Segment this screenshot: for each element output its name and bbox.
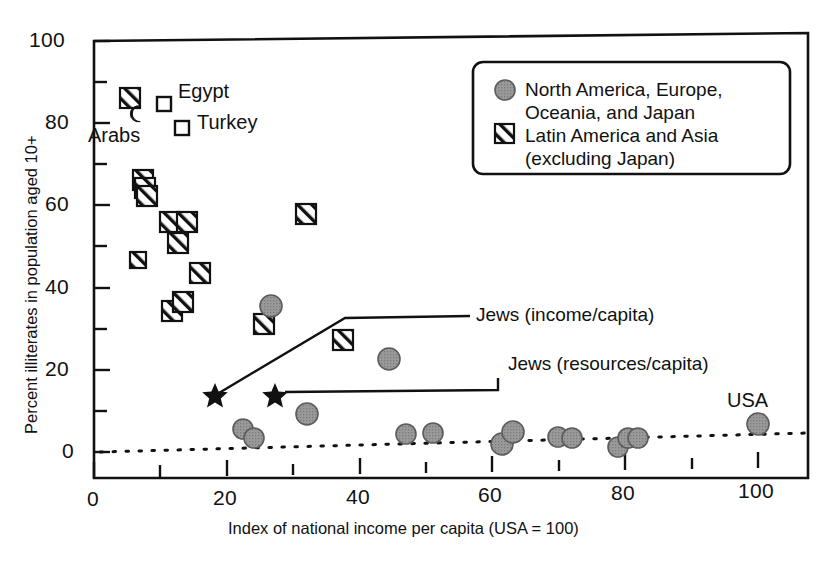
- legend-marker-square: [495, 124, 514, 143]
- chart-figure: 100 80 60 40 20 0 0 20 40 60 80 100 Inde…: [0, 0, 839, 561]
- marker-egypt: [157, 97, 171, 111]
- y-tick-100: 100: [29, 28, 65, 52]
- label-arabs: Arabs: [88, 124, 140, 147]
- marker-turkey: [175, 121, 189, 135]
- leader-line-resources: [285, 378, 498, 392]
- label-usa: USA: [727, 389, 768, 412]
- x-tick-60: 60: [478, 483, 502, 507]
- legend-marker-circle: [495, 80, 515, 100]
- markers-jews-stars: [202, 383, 288, 407]
- baseline-dotted: [100, 433, 808, 452]
- x-tick-0: 0: [87, 487, 99, 511]
- x-axis-title: Index of national income per capita (USA…: [228, 519, 579, 538]
- y-axis-ticks: [94, 41, 110, 452]
- x-axis-ticks: [94, 452, 758, 478]
- legend-entry-0-line2: Oceania, and Japan: [525, 101, 695, 124]
- y-tick-40: 40: [45, 275, 69, 299]
- x-tick-80: 80: [611, 481, 635, 505]
- label-turkey: Turkey: [197, 111, 257, 134]
- y-tick-20: 20: [45, 357, 69, 381]
- star-jews-income: [202, 383, 228, 407]
- legend-entry-1-line2: (excluding Japan): [525, 147, 675, 170]
- y-axis-title: Percent illiterates in population aged 1…: [22, 135, 41, 434]
- x-tick-100: 100: [738, 479, 774, 503]
- legend-entry-0-line1: North America, Europe,: [525, 78, 722, 101]
- x-tick-40: 40: [346, 485, 370, 509]
- y-tick-80: 80: [45, 110, 69, 134]
- label-egypt: Egypt: [178, 80, 229, 103]
- annotation-jews-resources: Jews (resources/capita): [508, 353, 709, 375]
- y-tick-0: 0: [62, 439, 74, 463]
- y-tick-60: 60: [45, 192, 69, 216]
- annotation-jews-income: Jews (income/capita): [476, 304, 654, 326]
- legend-entry-1-line1: Latin America and Asia: [525, 124, 718, 147]
- star-jews-resources: [262, 383, 288, 407]
- x-tick-20: 20: [213, 486, 237, 510]
